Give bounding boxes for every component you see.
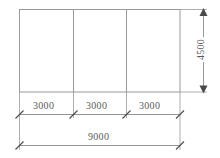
bay-dimension-label-3: 3000 <box>137 100 162 111</box>
main-rectangle <box>20 10 181 93</box>
bay-dimension-label-1: 3000 <box>31 100 56 111</box>
height-dimension-label: 4500 <box>195 37 206 62</box>
bay-dimension-label-2: 3000 <box>84 100 109 111</box>
overall-dimension-label: 9000 <box>86 131 111 142</box>
technical-drawing-canvas: 3000 3000 3000 9000 4500 <box>0 0 220 158</box>
